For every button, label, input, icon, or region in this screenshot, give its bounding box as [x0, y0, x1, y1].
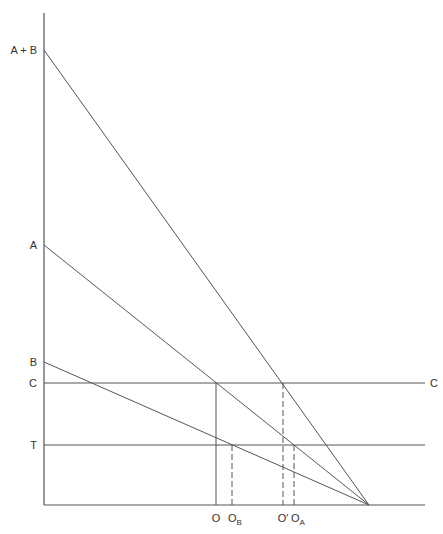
label-o: O [212, 512, 221, 524]
demand-line-a-plus-b [44, 50, 369, 505]
label-b: B [30, 356, 37, 368]
label-a-plus-b: A + B [10, 44, 37, 56]
label-c: C [29, 377, 37, 389]
label-o-a: OA [291, 512, 306, 527]
label-a: A [30, 239, 38, 251]
economics-diagram: A + B A B C T C O OB O′ OA [0, 0, 443, 534]
label-t: T [30, 439, 37, 451]
label-c-right: C [430, 377, 438, 389]
label-o-prime: O′ [278, 512, 289, 524]
label-o-b: OB [228, 512, 242, 527]
demand-line-a [44, 245, 369, 505]
